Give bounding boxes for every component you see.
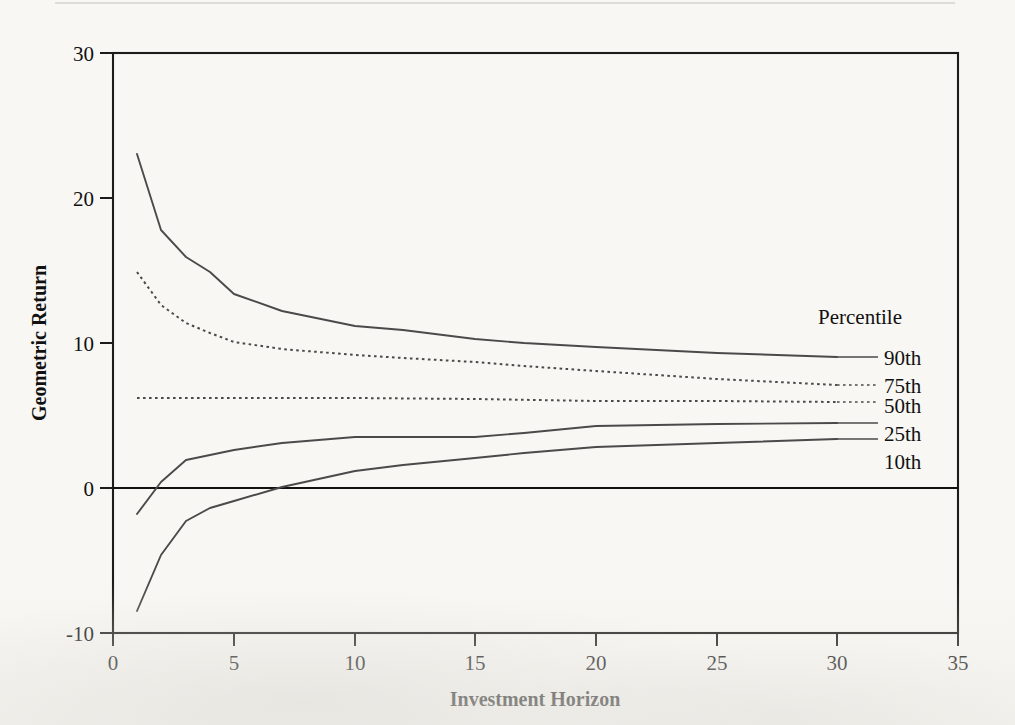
legend-label-50th: 50th xyxy=(884,394,922,418)
y-axis-ticks xyxy=(100,53,113,633)
x-axis-ticks xyxy=(113,633,958,646)
x-tick-label: 35 xyxy=(948,651,969,675)
y-tick-label: 20 xyxy=(73,187,94,211)
x-tick-label: 30 xyxy=(827,651,848,675)
legend: Percentile 90th 75th 50th 25th 10th xyxy=(818,305,922,474)
series-line-10th xyxy=(137,439,837,611)
x-tick-label: 10 xyxy=(345,651,366,675)
x-tick-label: 0 xyxy=(108,651,119,675)
x-axis-title: Investment Horizon xyxy=(450,688,621,710)
chart-svg: 30 20 10 0 -10 Geometric Return xyxy=(0,0,1015,725)
y-tick-label: -10 xyxy=(66,622,94,646)
y-tick-label: 30 xyxy=(73,42,94,66)
x-axis-tick-labels: 0 5 10 15 20 25 30 35 xyxy=(108,651,969,675)
legend-title: Percentile xyxy=(818,305,902,329)
x-tick-label: 15 xyxy=(465,651,486,675)
chart-figure: 30 20 10 0 -10 Geometric Return xyxy=(0,0,1015,725)
series-line-75th xyxy=(137,272,837,385)
y-axis-tick-labels: 30 20 10 0 -10 xyxy=(66,42,94,646)
series-line-25th xyxy=(137,423,837,514)
x-tick-label: 5 xyxy=(229,651,240,675)
x-tick-label: 20 xyxy=(586,651,607,675)
legend-label-25th: 25th xyxy=(884,422,922,446)
series-line-50th xyxy=(137,398,837,402)
legend-label-10th: 10th xyxy=(884,450,922,474)
legend-label-90th: 90th xyxy=(884,346,922,370)
y-tick-label: 10 xyxy=(73,332,94,356)
series-line-90th xyxy=(137,154,837,357)
y-tick-label: 0 xyxy=(84,477,95,501)
x-tick-label: 25 xyxy=(707,651,728,675)
y-axis-title: Geometric Return xyxy=(28,265,50,421)
figure-page: 30 20 10 0 -10 Geometric Return xyxy=(0,0,1015,725)
